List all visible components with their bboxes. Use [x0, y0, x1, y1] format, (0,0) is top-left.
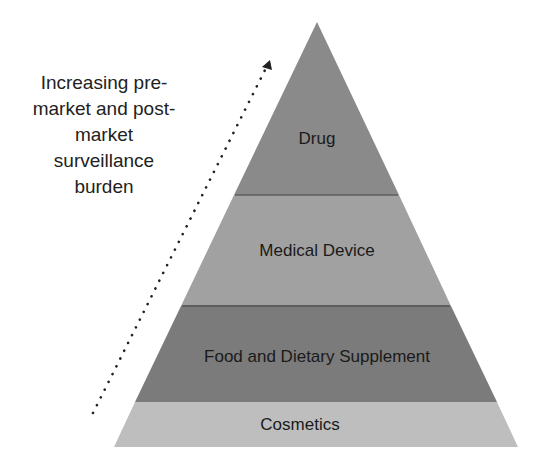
- annotation-line: Increasing pre-: [14, 70, 194, 96]
- tier-label-cosmetics: Cosmetics: [260, 415, 339, 434]
- annotation-line: market and post-: [14, 96, 194, 122]
- surveillance-burden-annotation: Increasing pre- market and post- market …: [14, 70, 194, 200]
- tier-drug: [234, 22, 399, 195]
- tier-label-food-dietary-supplement: Food and Dietary Supplement: [204, 347, 430, 366]
- tier-label-drug: Drug: [299, 129, 336, 148]
- tier-label-medical-device: Medical Device: [259, 241, 374, 260]
- annotation-line: surveillance: [14, 148, 194, 174]
- annotation-line: market: [14, 122, 194, 148]
- annotation-line: burden: [14, 174, 194, 200]
